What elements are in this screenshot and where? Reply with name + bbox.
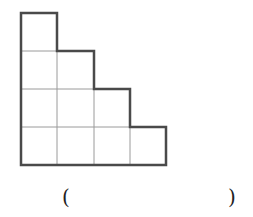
close-paren: ) [228,187,236,207]
open-paren: ( [62,187,70,207]
staircase-figure [0,0,253,217]
answer-blank[interactable] [75,187,225,207]
grid-lines [21,51,130,165]
